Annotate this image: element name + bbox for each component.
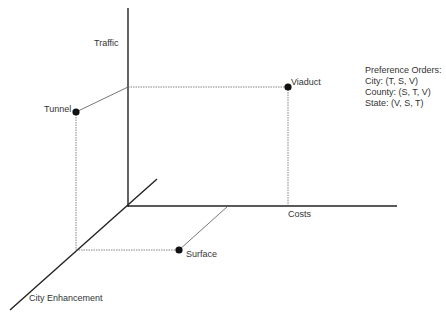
legend-item-county: County: (S, T, V) <box>365 87 442 98</box>
legend-item-state: State: (V, S, T) <box>365 98 442 109</box>
viaduct-label: Viaduct <box>291 77 321 87</box>
surface-to-costs-guide <box>179 206 228 250</box>
surface-point <box>175 246 182 253</box>
tunnel-to-traffic-guide <box>76 87 128 112</box>
tunnel-point <box>72 108 79 115</box>
legend-title: Preference Orders: <box>365 65 442 76</box>
traffic-axis-label: Traffic <box>94 38 119 48</box>
legend-item-city: City: (T, S, V) <box>365 76 442 87</box>
city-enhancement-axis-label: City Enhancement <box>29 293 103 303</box>
tunnel-label: Tunnel <box>44 104 71 114</box>
surface-label: Surface <box>186 249 217 259</box>
3d-axes-diagram <box>0 0 446 317</box>
city-enhancement-axis <box>10 179 157 310</box>
preference-orders-legend: Preference Orders: City: (T, S, V) Count… <box>365 65 442 109</box>
costs-axis-label: Costs <box>288 209 311 219</box>
